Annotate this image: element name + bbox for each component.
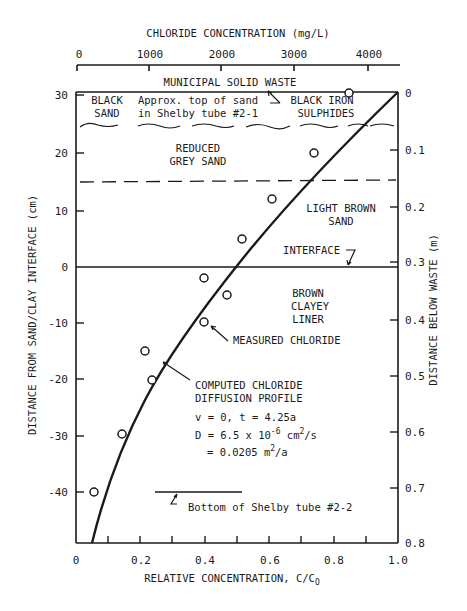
y-axis-title: DISTANCE FROM SAND/CLAY INTERFACE (cm) bbox=[26, 195, 38, 435]
right-tick: 0.4 bbox=[405, 314, 425, 327]
top-tick: 2000 bbox=[209, 48, 236, 61]
clay-liner-label: LINER bbox=[292, 313, 324, 325]
computed-label: COMPUTED CHLORIDE bbox=[195, 379, 302, 391]
bottom-tick: 0 bbox=[73, 554, 80, 567]
black-sand-label: BLACK bbox=[91, 94, 123, 106]
computed-diffusion-curve bbox=[92, 92, 398, 543]
data-point bbox=[345, 89, 353, 97]
left-tick: -30 bbox=[48, 430, 68, 443]
clay-liner-label: BROWN bbox=[292, 287, 324, 299]
bottom-tick: 0.6 bbox=[260, 554, 280, 567]
black-sand-label: SAND bbox=[94, 107, 119, 119]
shelby-top-label: in Shelby tube #2-1 bbox=[138, 107, 258, 119]
params-label: v = 0, t = 4.25a bbox=[195, 411, 296, 423]
bottom-tick: 0.4 bbox=[195, 554, 215, 567]
left-tick: -40 bbox=[48, 486, 68, 499]
left-tick: 20 bbox=[55, 147, 68, 160]
top-tick: 0 bbox=[76, 48, 83, 61]
interface-arrow bbox=[346, 250, 355, 265]
data-point bbox=[200, 274, 208, 282]
data-point bbox=[268, 195, 276, 203]
iron-sulphides-label: SULPHIDES bbox=[298, 107, 355, 119]
iron-sulphides-label: BLACK IRON bbox=[290, 94, 353, 106]
data-point bbox=[148, 376, 156, 384]
params-label: = 0.0205 m2/a bbox=[207, 444, 288, 458]
right-tick: 0 bbox=[405, 87, 412, 100]
waste-label: MUNICIPAL SOLID WASTE bbox=[164, 76, 297, 88]
right-tick: 0.5 bbox=[405, 370, 425, 383]
plot-frame bbox=[76, 92, 398, 543]
data-point bbox=[223, 291, 231, 299]
clay-liner-label: CLAYEY bbox=[291, 300, 330, 312]
top-tick: 1000 bbox=[137, 48, 164, 61]
grey-sand-label: GREY SAND bbox=[170, 155, 227, 167]
right-tick: 0.7 bbox=[405, 482, 425, 495]
shelby-top-arrow bbox=[268, 91, 280, 103]
y2-axis-title: DISTANCE BELOW WASTE (m) bbox=[427, 234, 439, 386]
left-tick: 10 bbox=[55, 205, 68, 218]
left-tick: -10 bbox=[48, 317, 68, 330]
data-point bbox=[310, 149, 318, 157]
wavy-boundary-line bbox=[80, 123, 394, 128]
light-brown-sand-label: SAND bbox=[328, 215, 353, 227]
chart-canvas: CHLORIDE CONCENTRATION (mg/L) 0 1000 200… bbox=[0, 0, 467, 611]
bottom-tick: 0.2 bbox=[131, 554, 151, 567]
x-axis-title: RELATIVE CONCENTRATION, C/CO bbox=[144, 572, 320, 587]
params-label: D = 6.5 x 10-6 cm2/s bbox=[195, 427, 317, 441]
top-tick: 3000 bbox=[281, 48, 308, 61]
right-tick: 0.3 bbox=[405, 256, 425, 269]
measured-arrow bbox=[211, 326, 228, 341]
bottom-tick: 1.0 bbox=[388, 554, 408, 567]
top-axis-title: CHLORIDE CONCENTRATION (mg/L) bbox=[146, 27, 329, 39]
data-point bbox=[200, 318, 208, 326]
shelby-bottom-arrow bbox=[171, 494, 177, 504]
computed-label: DIFFUSION PROFILE bbox=[195, 392, 302, 404]
measured-label: MEASURED CHLORIDE bbox=[233, 334, 340, 346]
shelby-top-label: Approx. top of sand bbox=[138, 94, 258, 106]
right-tick: 0.2 bbox=[405, 201, 425, 214]
light-brown-sand-label: LIGHT BROWN bbox=[306, 202, 376, 214]
top-tick: 4000 bbox=[356, 48, 383, 61]
right-tick: 0.8 bbox=[405, 537, 425, 550]
right-tick: 0.1 bbox=[405, 144, 425, 157]
grey-sand-label: REDUCED bbox=[176, 142, 220, 154]
data-point bbox=[238, 235, 246, 243]
top-axis: CHLORIDE CONCENTRATION (mg/L) 0 1000 200… bbox=[76, 27, 400, 71]
data-point bbox=[141, 347, 149, 355]
shelby-bottom-label: Bottom of Shelby tube #2-2 bbox=[188, 501, 352, 513]
left-tick: 0 bbox=[61, 261, 68, 274]
data-point bbox=[118, 430, 126, 438]
left-tick: 30 bbox=[55, 89, 68, 102]
bottom-tick: 0.8 bbox=[324, 554, 344, 567]
dashed-boundary-line bbox=[80, 180, 396, 182]
right-tick: 0.6 bbox=[405, 426, 425, 439]
data-point bbox=[90, 488, 98, 496]
computed-arrow bbox=[163, 362, 190, 380]
interface-label: INTERFACE bbox=[283, 244, 340, 256]
left-tick: -20 bbox=[48, 373, 68, 386]
